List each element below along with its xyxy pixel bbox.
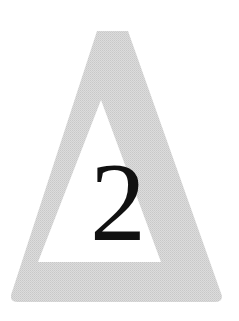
numeral-label: 2 — [78, 146, 158, 258]
